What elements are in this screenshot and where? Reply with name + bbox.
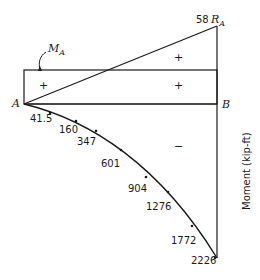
- curve-value-label: 904: [128, 183, 147, 194]
- curve-value-label: 1276: [146, 201, 171, 212]
- curve-tick: [145, 176, 148, 179]
- axis-label: Moment (kip-ft): [241, 132, 252, 210]
- point-b-label: B: [221, 98, 230, 111]
- arrowhead-icon: [38, 66, 42, 71]
- reaction-label: RA: [210, 13, 225, 28]
- moment-diagram: MA 58 RA A B + + + − 41.5160347601904127…: [0, 0, 260, 280]
- applied-moment-label: MA: [47, 42, 65, 57]
- curve-value-label: 2226: [191, 255, 216, 266]
- curve-value-label: 601: [101, 158, 120, 169]
- reaction-value: 58: [196, 14, 209, 25]
- sign-lower-region: −: [174, 140, 183, 153]
- curve-tick: [95, 130, 98, 133]
- curve-value-label: 160: [59, 124, 78, 135]
- positive-moment-band: [24, 70, 217, 104]
- curve-tick: [120, 149, 123, 152]
- sign-upper-triangle: +: [174, 51, 183, 64]
- curve-value-label: 1772: [171, 235, 196, 246]
- sign-rect-right: +: [174, 79, 183, 92]
- curve-tick: [75, 120, 78, 123]
- curve-tick: [167, 191, 170, 194]
- curve-value-label: 41.5: [30, 113, 52, 124]
- curve-value-label: 347: [77, 136, 96, 147]
- sign-rect-left: +: [39, 79, 48, 92]
- point-a-label: A: [11, 97, 20, 110]
- curve-tick: [191, 225, 194, 228]
- reaction-moment-line: [24, 26, 217, 104]
